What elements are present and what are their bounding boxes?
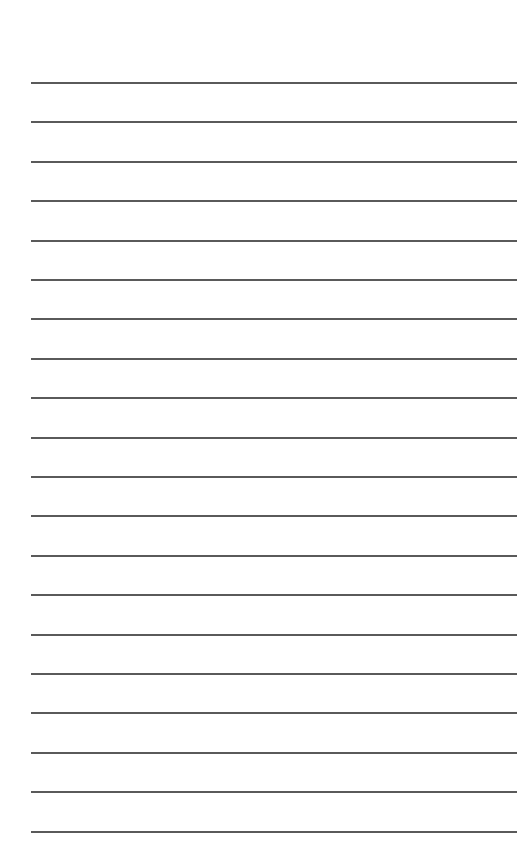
ruled-line bbox=[31, 555, 517, 557]
ruled-line bbox=[31, 279, 517, 281]
ruled-line bbox=[31, 712, 517, 714]
ruled-line bbox=[31, 82, 517, 84]
ruled-line bbox=[31, 358, 517, 360]
ruled-line bbox=[31, 594, 517, 596]
ruled-line bbox=[31, 121, 517, 123]
ruled-line bbox=[31, 437, 517, 439]
ruled-line bbox=[31, 515, 517, 517]
ruled-line bbox=[31, 397, 517, 399]
ruled-line bbox=[31, 634, 517, 636]
ruled-line bbox=[31, 161, 517, 163]
ruled-line bbox=[31, 318, 517, 320]
ruled-line bbox=[31, 673, 517, 675]
lined-paper-sheet bbox=[0, 0, 525, 863]
ruled-line bbox=[31, 752, 517, 754]
ruled-line bbox=[31, 791, 517, 793]
ruled-line bbox=[31, 476, 517, 478]
ruled-line bbox=[31, 240, 517, 242]
ruled-line bbox=[31, 831, 517, 833]
ruled-line bbox=[31, 200, 517, 202]
